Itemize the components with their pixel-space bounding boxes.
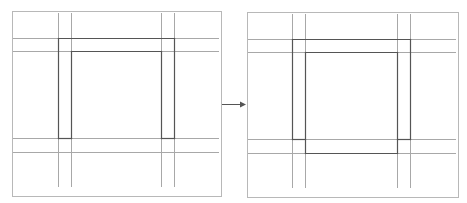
panel-border xyxy=(13,12,222,197)
panel-before xyxy=(13,12,222,197)
arrow-head xyxy=(240,102,246,108)
diagram-canvas xyxy=(0,0,467,203)
panel-after xyxy=(248,13,459,198)
arrow-right-icon xyxy=(222,102,246,108)
panel-border xyxy=(248,13,459,198)
